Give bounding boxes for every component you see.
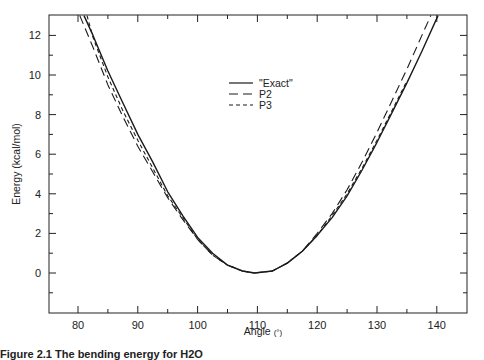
x-tick-label: 90 bbox=[132, 319, 144, 331]
legend: "Exact"P2P3 bbox=[229, 77, 293, 111]
y-axis-title: Energy (kcal/mol) bbox=[10, 123, 22, 205]
y-tick-label: 6 bbox=[35, 148, 41, 160]
x-axis-unit: (°) bbox=[274, 328, 283, 337]
plot-frame bbox=[49, 15, 467, 313]
data-series bbox=[80, 16, 438, 273]
x-tick-label: 130 bbox=[368, 319, 386, 331]
x-tick-label: 100 bbox=[188, 319, 206, 331]
y-tick-label: 2 bbox=[35, 227, 41, 239]
y-tick-label: 10 bbox=[29, 69, 41, 81]
x-tick-label: 80 bbox=[72, 319, 84, 331]
y-tick-label: 12 bbox=[29, 29, 41, 41]
y-tick-label: 8 bbox=[35, 109, 41, 121]
x-tick-label: 140 bbox=[428, 319, 446, 331]
legend-label: P3 bbox=[259, 99, 272, 111]
x-axis-title: Angle (°) bbox=[244, 325, 283, 337]
series-line-p3 bbox=[87, 16, 407, 273]
axis-tick-labels: 8090100110120130140024681012 bbox=[29, 29, 446, 331]
axis-ticks bbox=[49, 15, 467, 313]
y-tick-label: 0 bbox=[35, 267, 41, 279]
y-tick-label: 4 bbox=[35, 188, 41, 200]
x-tick-label: 120 bbox=[308, 319, 326, 331]
figure-caption: Figure 2.1 The bending energy for H2O bbox=[0, 348, 203, 360]
series-line-p2 bbox=[80, 16, 431, 273]
